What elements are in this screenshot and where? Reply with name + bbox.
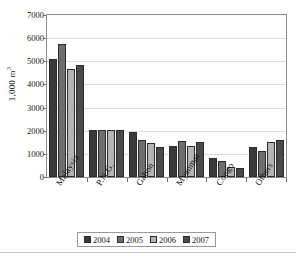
bar xyxy=(58,44,66,177)
y-axis-tick-label: 5000 xyxy=(0,56,44,66)
x-axis-tick-mark xyxy=(246,178,247,182)
bar xyxy=(129,132,137,177)
legend-swatch xyxy=(117,236,124,243)
bottom-divider xyxy=(0,252,296,253)
legend-swatch xyxy=(183,236,190,243)
bar xyxy=(236,168,244,177)
legend-item: 2004 xyxy=(84,235,110,245)
legend-item: 2005 xyxy=(117,235,143,245)
x-axis-tick-mark xyxy=(286,178,287,182)
bar-chart-figure: 1,000 m3 01000200030004000500060007000 M… xyxy=(0,0,296,259)
chart-legend: 2004200520062007 xyxy=(77,232,216,247)
x-axis-tick-mark xyxy=(167,178,168,182)
y-axis-tick-label: 0 xyxy=(0,172,44,182)
legend-item: 2007 xyxy=(183,235,209,245)
legend-label: 2006 xyxy=(159,235,176,245)
bar xyxy=(89,130,97,177)
bar-group xyxy=(246,15,286,177)
y-axis-tick-label: 6000 xyxy=(0,33,44,43)
bar xyxy=(169,146,177,177)
legend-swatch xyxy=(84,236,91,243)
bar xyxy=(276,140,284,177)
y-axis-tick-label: 4000 xyxy=(0,79,44,89)
bars-container xyxy=(47,15,286,177)
bar xyxy=(156,147,164,177)
bar-group xyxy=(127,15,167,177)
legend-label: 2007 xyxy=(192,235,209,245)
bar xyxy=(116,130,124,177)
legend-label: 2005 xyxy=(126,235,143,245)
y-axis-tick-label: 7000 xyxy=(0,10,44,20)
legend-swatch xyxy=(150,236,157,243)
bar-group xyxy=(206,15,246,177)
bar-group xyxy=(87,15,127,177)
y-axis-title-exponent: 3 xyxy=(5,67,12,70)
y-axis-tick-label: 3000 xyxy=(0,103,44,113)
legend-item: 2006 xyxy=(150,235,176,245)
x-axis-tick-mark xyxy=(206,178,207,182)
legend-label: 2004 xyxy=(93,235,110,245)
y-axis-tick-label: 2000 xyxy=(0,126,44,136)
bar xyxy=(249,147,257,177)
bar xyxy=(209,158,217,177)
y-axis-tick-label: 1000 xyxy=(0,149,44,159)
x-axis-tick-mark xyxy=(127,178,128,182)
x-axis-tick-mark xyxy=(87,178,88,182)
bar xyxy=(49,59,57,177)
bar-group xyxy=(167,15,207,177)
bar-group xyxy=(47,15,87,177)
